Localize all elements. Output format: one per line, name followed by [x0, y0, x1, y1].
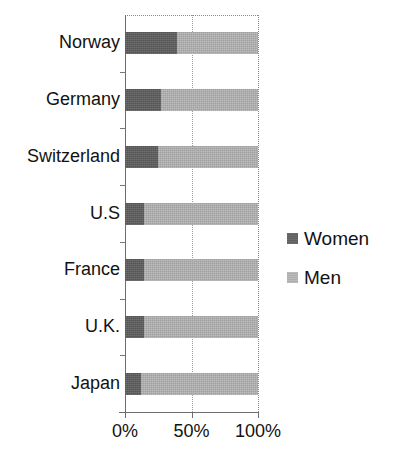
category-tick — [120, 242, 126, 243]
bar-segment-women[interactable] — [125, 32, 177, 54]
bar-row — [125, 373, 258, 395]
value-tick — [192, 412, 193, 418]
bar-segment-men[interactable] — [141, 373, 258, 395]
category-label: U.K. — [0, 316, 120, 336]
legend-label-men: Men — [304, 267, 341, 288]
category-label: U.S — [0, 203, 120, 223]
value-axis-labels: 0%50%100% — [0, 420, 394, 450]
bar-row — [125, 89, 258, 111]
category-tick — [120, 185, 126, 186]
bar-segment-men[interactable] — [177, 32, 258, 54]
bar-segment-men[interactable] — [144, 259, 258, 281]
category-axis-baseline — [119, 412, 259, 413]
category-label: Switzerland — [0, 146, 120, 166]
category-label: Germany — [0, 89, 120, 109]
bar-segment-men[interactable] — [144, 316, 258, 338]
bar-segment-women[interactable] — [125, 203, 144, 225]
category-tick — [120, 299, 126, 300]
bar-row — [125, 259, 258, 281]
value-axis-tick-label: 100% — [235, 420, 281, 442]
bar-segment-women[interactable] — [125, 373, 141, 395]
category-label: Japan — [0, 373, 120, 393]
bar-row — [125, 146, 258, 168]
category-tick — [120, 128, 126, 129]
bar-segment-men[interactable] — [158, 146, 258, 168]
value-tick — [258, 412, 259, 418]
chart-legend: Women Men — [287, 228, 392, 306]
category-label: France — [0, 259, 120, 279]
bar-segment-women[interactable] — [125, 89, 161, 111]
value-axis-tick-label: 0% — [112, 420, 138, 442]
bar-segment-men[interactable] — [161, 89, 258, 111]
bar-row — [125, 32, 258, 54]
legend-entry-women[interactable]: Women — [287, 228, 392, 249]
category-tick — [120, 72, 126, 73]
bar-segment-men[interactable] — [144, 203, 258, 225]
bar-segment-women[interactable] — [125, 259, 144, 281]
bar-row — [125, 203, 258, 225]
stacked-bar-chart: NorwayGermanySwitzerlandU.SFranceU.K.Jap… — [0, 0, 394, 465]
category-label: Norway — [0, 32, 120, 52]
bar-segment-women[interactable] — [125, 146, 158, 168]
value-tick — [125, 412, 126, 418]
bar-row — [125, 316, 258, 338]
legend-swatch-men-icon — [287, 272, 298, 283]
legend-label-women: Women — [304, 228, 369, 249]
category-axis-labels: NorwayGermanySwitzerlandU.SFranceU.K.Jap… — [0, 0, 120, 465]
plot-area — [125, 15, 258, 412]
value-axis-tick-label: 50% — [173, 420, 209, 442]
plot-frame-right-border — [258, 15, 259, 412]
bar-segment-women[interactable] — [125, 316, 144, 338]
legend-entry-men[interactable]: Men — [287, 267, 392, 288]
legend-swatch-women-icon — [287, 233, 298, 244]
category-tick — [120, 355, 126, 356]
